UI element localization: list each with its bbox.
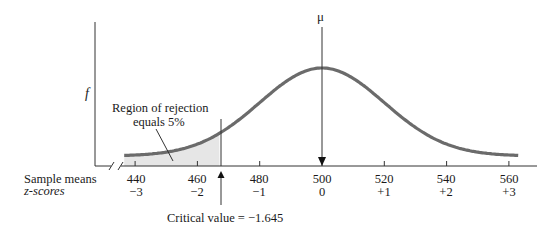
tick-label-480: 480−1 xyxy=(239,173,279,199)
critical-value-arrow-icon xyxy=(218,171,225,205)
region-label-line2: equals 5% xyxy=(133,115,185,129)
axis-break-icon xyxy=(109,162,123,170)
tick-label-520: 520+1 xyxy=(364,173,404,199)
mean-label: μ xyxy=(317,10,324,24)
tick-label-500: 5000 xyxy=(302,173,342,199)
tick-label-560: 560+3 xyxy=(489,173,529,199)
region-label-line1: Region of rejection xyxy=(112,101,209,115)
tick-label-540: 540+2 xyxy=(426,173,466,199)
critical-value-label: Critical value = −1.645 xyxy=(167,211,283,225)
tick-label-440: 440−3 xyxy=(116,173,156,199)
mean-arrow-icon xyxy=(318,27,326,166)
z-scores-label: z-scores xyxy=(24,184,65,198)
normal-distribution-chart xyxy=(0,0,558,236)
y-axis-label: f xyxy=(85,87,89,101)
tick-label-460: 460−2 xyxy=(177,173,217,199)
